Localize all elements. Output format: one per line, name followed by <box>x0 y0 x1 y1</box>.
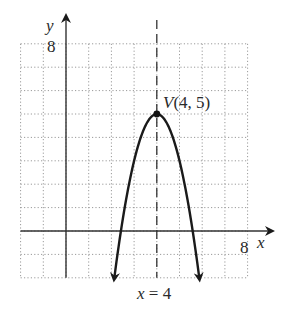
parabola-right-branch <box>157 114 199 278</box>
parabola-graph: y 8 x 8 V(4, 5) x = 4 <box>0 0 282 311</box>
y-axis-label: y <box>44 16 54 35</box>
vertex-point <box>153 111 160 118</box>
axes <box>21 18 270 278</box>
symmetry-label: x = 4 <box>136 284 172 303</box>
parabola-left-branch <box>114 114 156 278</box>
vertex-coords: (4, 5) <box>173 93 210 112</box>
vertex-label: V(4, 5) <box>163 93 210 112</box>
y-max-tick-label: 8 <box>47 37 56 56</box>
symmetry-value: = 4 <box>145 284 172 303</box>
x-max-tick-label: 8 <box>240 238 249 257</box>
x-axis-label: x <box>256 233 265 252</box>
